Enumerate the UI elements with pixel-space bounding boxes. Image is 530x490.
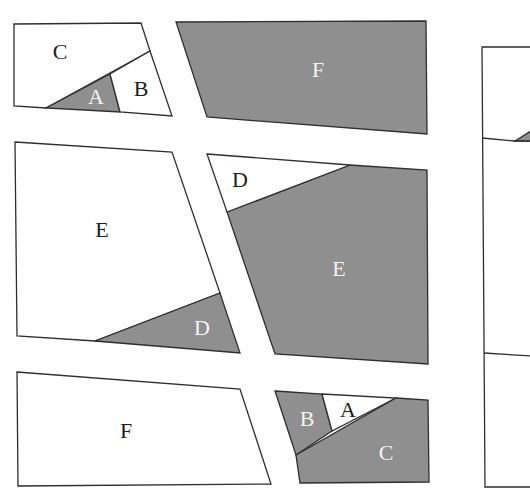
label-e: E: [332, 256, 345, 281]
label-f: F: [312, 57, 324, 82]
label-f: F: [120, 418, 132, 443]
figure-top-left: C A B: [14, 23, 172, 116]
label-b: B: [300, 406, 315, 431]
figure-middle-center: D E: [207, 154, 428, 364]
label-c: C: [379, 440, 394, 465]
label-d: D: [232, 167, 248, 192]
label-a: A: [340, 397, 356, 422]
figure-middle-left: E D: [15, 142, 240, 353]
label-a: A: [88, 84, 104, 109]
figure-top-middle: F: [176, 21, 427, 134]
label-e: E: [95, 217, 108, 242]
partial-cut-bottom: [484, 353, 530, 356]
label-b: B: [134, 76, 149, 101]
figure-bottom-center: B A C: [275, 391, 429, 483]
partial-outline: [482, 47, 530, 487]
partial-gray-sliver: [515, 131, 530, 141]
label-c: C: [53, 39, 68, 64]
dissection-diagram: C A B F E D D E F B A C: [0, 0, 530, 490]
piece-f: [17, 372, 271, 486]
figure-bottom-left: F: [17, 372, 271, 486]
piece-f: [176, 21, 427, 134]
figure-right-partial: [482, 47, 530, 487]
label-d: D: [194, 315, 210, 340]
